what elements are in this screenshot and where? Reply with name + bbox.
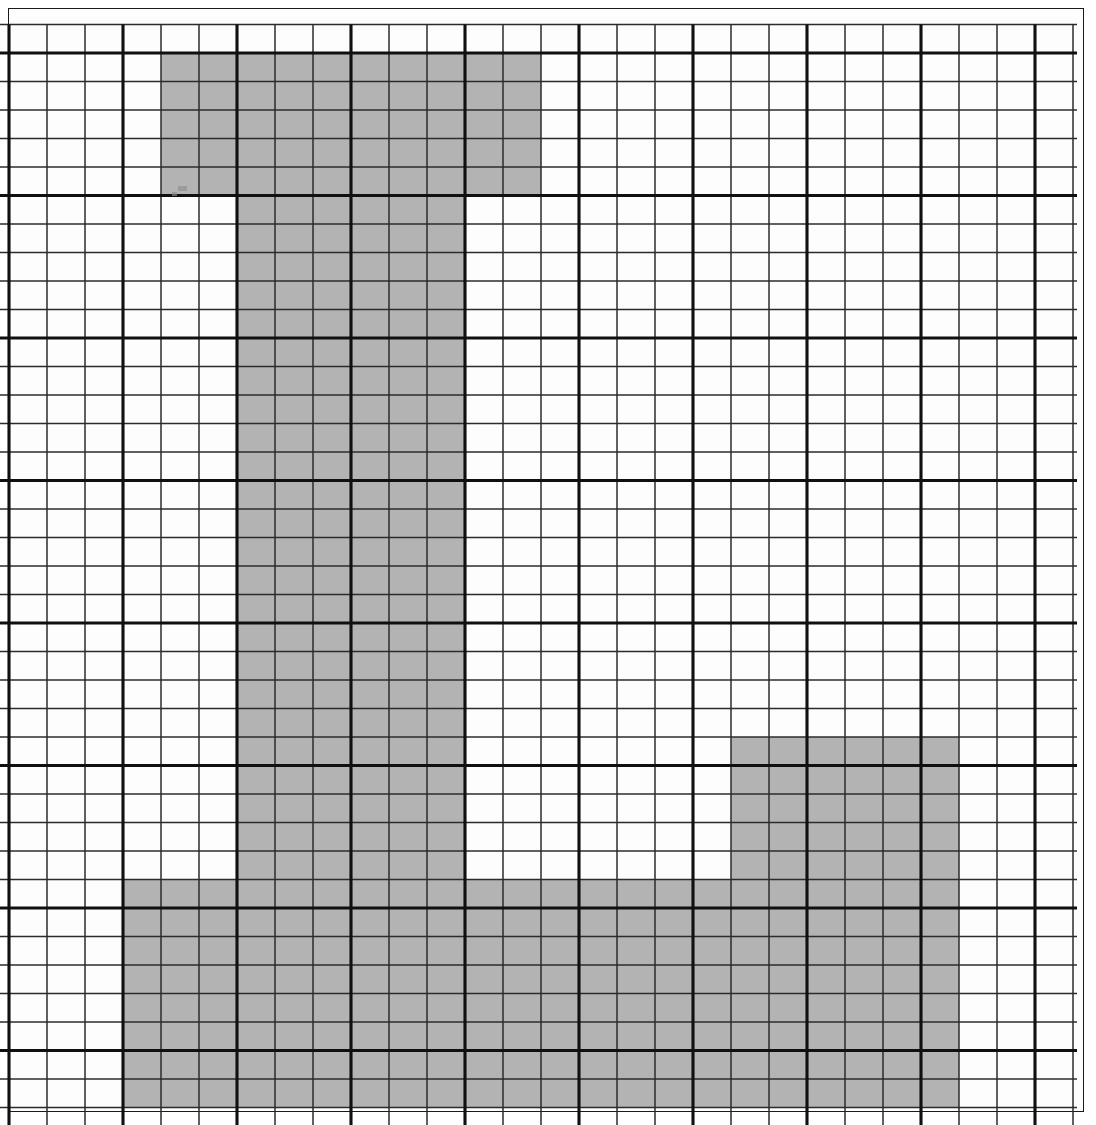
grid-svg xyxy=(0,0,1096,1125)
speck-upper-left xyxy=(178,186,187,191)
speck-upper-left-2 xyxy=(172,192,177,196)
grid-figure-canvas xyxy=(0,0,1096,1125)
page-root: Shaded polyomino region on a ruled grid … xyxy=(0,0,1096,1125)
